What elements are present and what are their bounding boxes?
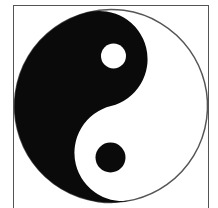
- yin-yang-icon: [0, 0, 218, 208]
- yang-dot: [101, 44, 126, 69]
- yin-dot: [96, 143, 126, 173]
